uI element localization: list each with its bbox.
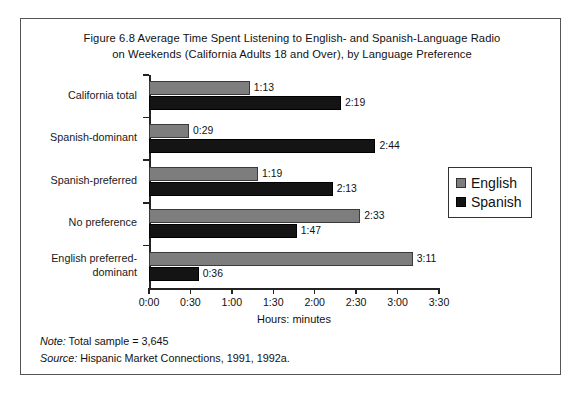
x-axis-tick [273,288,275,294]
legend-label-english: English [471,175,517,191]
y-axis-category-label: Spanish-dominant [21,131,143,145]
y-axis-tick [143,74,149,76]
x-axis-tick [397,288,399,294]
chart-legend: English Spanish [448,167,532,218]
y-axis-category-label-line: No preference [21,216,143,230]
y-axis-category-label-line: English preferred- [21,252,143,266]
y-axis-category-label: Spanish-preferred [21,174,143,188]
bar-spanish-2 [149,139,375,153]
x-axis-title: Hours: minutes [149,313,439,325]
bar-english-4 [149,209,360,223]
x-axis-tick-label: 0:00 [139,296,160,308]
bar-value-label: 3:11 [417,252,436,266]
x-axis-tick [148,288,150,294]
footnote-source-text: Hispanic Market Connections, 1991, 1992a… [77,352,289,364]
y-axis-category-label-line: dominant [21,266,143,280]
x-axis-tick-label: 0:30 [180,296,201,308]
bar-value-label: 2:13 [337,182,357,196]
footnote-note-text: Total sample = 3,645 [66,335,169,347]
x-axis-tick [438,288,440,294]
y-axis-category-label-line: Spanish-preferred [21,174,143,188]
bar-value-label: 2:33 [364,209,384,223]
footnote-note: Note: Total sample = 3,645 [40,333,290,350]
figure-footnotes: Note: Total sample = 3,645 Source: Hispa… [40,333,290,367]
bar-english-2 [149,124,189,138]
x-axis-tick [190,288,192,294]
x-axis-tick [314,288,316,294]
x-axis-tick-label: 1:30 [263,296,284,308]
legend-item-english: English [456,173,522,192]
bar-spanish-5 [149,267,199,281]
y-axis-category-label-line: California total [21,89,143,103]
bar-value-label: 1:13 [254,81,274,95]
x-axis-line [149,288,439,290]
bar-english-5 [149,252,413,266]
footnote-source: Source: Hispanic Market Connections, 199… [40,350,290,367]
legend-item-spanish: Spanish [456,192,522,211]
footnote-source-key: Source: [40,352,77,364]
y-axis-category-label-line: Spanish-dominant [21,131,143,145]
bar-spanish-4 [149,224,297,238]
bar-spanish-3 [149,182,333,196]
bar-value-label: 2:44 [379,139,399,153]
y-axis-tick [143,159,149,161]
legend-swatch-spanish-icon [456,197,466,207]
bar-spanish-1 [149,96,341,110]
bar-value-label: 1:47 [301,224,321,238]
y-axis-category-label: California total [21,89,143,103]
bar-value-label: 0:36 [203,267,223,281]
bar-value-label: 0:29 [193,124,213,138]
y-axis-tick [143,117,149,119]
y-axis-tick [143,202,149,204]
figure-frame: Figure 6.8 Average Time Spent Listening … [20,18,561,375]
bar-value-label: 1:19 [262,167,282,181]
footnote-note-key: Note: [40,335,66,347]
x-axis-tick [231,288,233,294]
bar-value-label: 2:19 [345,96,365,110]
x-axis-tick-label: 3:30 [429,296,450,308]
legend-label-spanish: Spanish [471,194,522,210]
x-axis-tick [355,288,357,294]
y-axis-tick [143,245,149,247]
x-axis-tick-label: 2:00 [304,296,325,308]
y-axis-category-label: English preferred-dominant [21,252,143,279]
bar-english-3 [149,167,258,181]
x-axis-tick-label: 2:30 [346,296,367,308]
x-axis-tick-label: 3:00 [387,296,408,308]
bar-english-1 [149,81,250,95]
y-axis-category-label: No preference [21,216,143,230]
legend-swatch-english-icon [456,178,466,188]
x-axis-tick-label: 1:00 [222,296,243,308]
